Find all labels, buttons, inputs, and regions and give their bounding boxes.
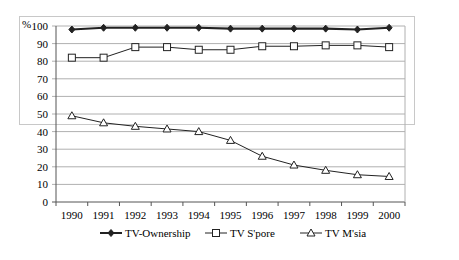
triangle-marker-icon xyxy=(68,112,76,119)
y-tick-label: 10 xyxy=(37,178,49,190)
square-marker-icon xyxy=(354,42,361,49)
x-tick-label: 1995 xyxy=(220,209,243,221)
diamond-marker-icon xyxy=(196,24,202,31)
square-marker-icon xyxy=(322,42,329,49)
y-tick-label: 100 xyxy=(32,20,49,32)
x-tick-label: 1996 xyxy=(251,209,274,221)
x-tick-label: 2000 xyxy=(378,209,401,221)
y-axis: 0102030405060708090100 xyxy=(32,20,49,208)
x-tick-label: 1990 xyxy=(61,209,84,221)
x-tick-label: 1997 xyxy=(283,209,306,221)
y-axis-unit-label: % xyxy=(22,18,31,30)
legend-item: TV-Ownership xyxy=(100,227,191,239)
legend-item: TV S'pore xyxy=(205,227,275,239)
y-tick-label: 40 xyxy=(37,126,49,138)
series-tv-m-sia xyxy=(68,112,393,180)
square-marker-icon xyxy=(68,54,75,61)
y-tick-label: 60 xyxy=(37,90,49,102)
y-tick-label: 70 xyxy=(37,73,49,85)
diamond-marker-icon xyxy=(354,26,360,33)
square-marker-icon xyxy=(195,46,202,53)
diamond-marker-icon xyxy=(132,24,138,31)
legend-label: TV-Ownership xyxy=(125,227,191,239)
x-tick-label: 1999 xyxy=(346,209,369,221)
y-tick-label: 90 xyxy=(37,38,49,50)
square-marker-icon xyxy=(290,43,297,50)
legend-label: TV M'sia xyxy=(325,227,366,239)
square-marker-icon xyxy=(164,44,171,51)
chart-frame xyxy=(20,17,415,125)
square-marker-icon xyxy=(100,54,107,61)
diamond-marker-icon xyxy=(69,26,75,33)
plot-area xyxy=(52,24,405,202)
x-tick-label: 1992 xyxy=(124,209,146,221)
legend-item: TV M'sia xyxy=(300,227,366,239)
x-axis: 1990199119921993199419951996199719981999… xyxy=(56,202,405,221)
y-tick-label: 20 xyxy=(37,161,49,173)
diamond-marker-icon xyxy=(164,24,170,31)
square-marker-icon xyxy=(213,230,220,237)
square-marker-icon xyxy=(259,43,266,50)
legend-label: TV S'pore xyxy=(230,227,275,239)
triangle-marker-icon xyxy=(258,152,266,159)
square-marker-icon xyxy=(386,44,393,51)
series-tv-s-pore xyxy=(68,42,392,61)
x-tick-label: 1998 xyxy=(315,209,338,221)
y-tick-label: 80 xyxy=(37,55,49,67)
x-tick-label: 1994 xyxy=(188,209,211,221)
legend: TV-OwnershipTV S'poreTV M'sia xyxy=(100,227,366,239)
square-marker-icon xyxy=(227,46,234,53)
y-tick-label: 50 xyxy=(37,108,49,120)
square-marker-icon xyxy=(132,44,139,51)
diamond-marker-icon xyxy=(101,24,107,31)
x-tick-label: 1991 xyxy=(93,209,115,221)
diamond-marker-icon xyxy=(108,230,114,237)
y-tick-label: 0 xyxy=(43,196,49,208)
x-tick-label: 1993 xyxy=(156,209,179,221)
line-chart: % 0102030405060708090100 199019911992199… xyxy=(0,0,459,260)
diamond-marker-icon xyxy=(386,24,392,31)
y-tick-label: 30 xyxy=(37,143,49,155)
